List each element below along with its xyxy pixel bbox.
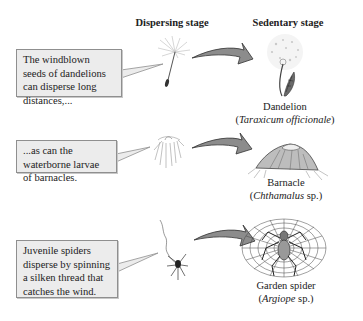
barnacle-label: Barnacle (Chthamalus sp.) <box>250 176 322 202</box>
dandelion-label: Dandelion (Taraxicum officionale) <box>235 100 334 126</box>
dandelion-scientific-name: (Taraxicum officionale) <box>235 113 334 126</box>
barnacle-scientific-name: (Chthamalus sp.) <box>250 189 322 202</box>
arrow-1-icon <box>192 43 253 64</box>
dandelion-seed-icon <box>158 36 190 87</box>
dandelion-plant-icon <box>267 34 303 96</box>
dandelion-common-name: Dandelion <box>235 100 334 113</box>
garden-spider-label: Garden spider (Argiope sp.) <box>256 279 315 305</box>
barnacle-larva-icon <box>154 137 184 168</box>
ballooning-spider-icon <box>160 220 188 280</box>
arrow-2-icon <box>192 133 252 154</box>
barnacle-common-name: Barnacle <box>250 176 322 189</box>
callout-spider: Juvenile spiders disperse by spinning a … <box>16 240 118 298</box>
callout-dandelion: The windblown seeds of dandelions can di… <box>16 49 122 97</box>
garden-spider-common-name: Garden spider <box>256 279 315 292</box>
garden-spider-scientific-name: (Argiope sp.) <box>256 292 315 305</box>
callout-pointer-1 <box>121 64 163 78</box>
callout-pointer-3 <box>117 253 158 272</box>
callout-barnacle: ...as can the waterborne larvae of barna… <box>16 140 117 173</box>
barnacle-icon <box>248 144 328 180</box>
callout-pointer-2 <box>116 147 150 162</box>
garden-spider-web-icon <box>242 219 326 277</box>
